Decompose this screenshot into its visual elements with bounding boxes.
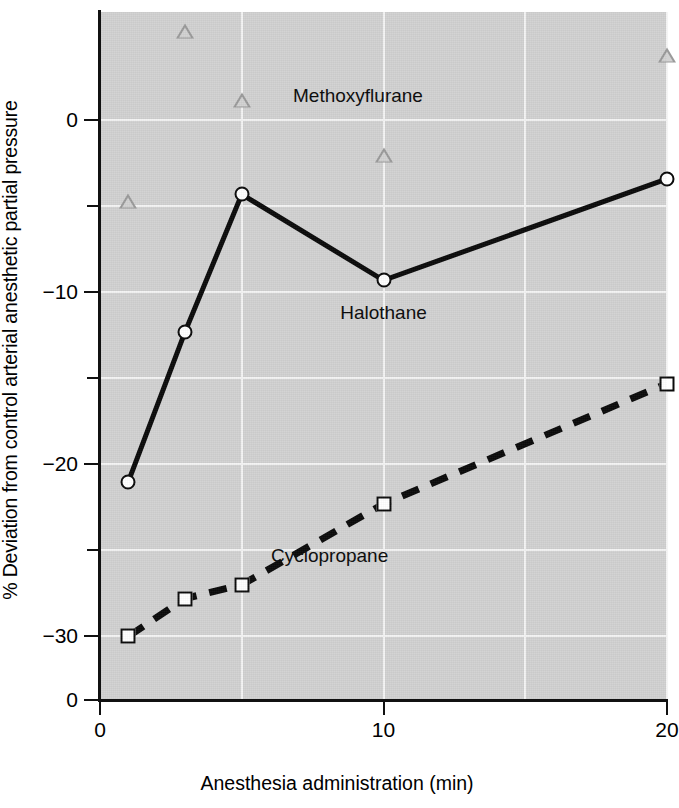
x-axis-title: Anesthesia administration (min) <box>0 772 674 795</box>
x-axis-tick-label: 20 <box>655 718 678 742</box>
data-point-marker-methoxyflurane <box>119 194 137 209</box>
x-axis-tick-label: 0 <box>94 718 106 742</box>
data-point-marker-methoxyflurane <box>658 48 676 63</box>
data-point-marker-halothane <box>660 171 675 186</box>
y-axis-tick <box>87 377 99 379</box>
y-axis-tick <box>84 463 99 465</box>
y-axis-tick-label: 0 <box>66 108 78 132</box>
y-axis-line <box>98 10 101 702</box>
y-axis-tick <box>84 699 99 701</box>
series-label-halothane: Halothane <box>340 302 427 324</box>
data-point-marker-methoxyflurane <box>375 147 393 162</box>
x-axis-tick <box>99 700 101 715</box>
y-axis-tick-label: 0 <box>66 688 78 712</box>
data-point-marker-halothane <box>376 273 391 288</box>
y-axis-tick <box>84 291 99 293</box>
y-axis-title: % Deviation from control arterial anesth… <box>0 0 24 700</box>
series-line-cyclopropane <box>128 384 667 637</box>
x-axis-tick-label: 10 <box>372 718 395 742</box>
y-axis-tick <box>87 549 99 551</box>
y-axis-tick <box>84 119 99 121</box>
plot-area: HalothaneCyclopropaneMethoxyflurane <box>100 12 667 700</box>
x-axis-tick <box>383 700 385 715</box>
data-point-marker-halothane <box>178 324 193 339</box>
triangle-inner <box>378 151 390 161</box>
y-axis-tick-label: −10 <box>42 280 78 304</box>
data-point-marker-cyclopropane <box>376 496 391 511</box>
triangle-inner <box>179 27 191 37</box>
data-point-marker-cyclopropane <box>234 577 249 592</box>
data-point-marker-methoxyflurane <box>233 92 251 107</box>
data-point-marker-halothane <box>121 474 136 489</box>
series-label-methoxyflurane: Methoxyflurane <box>293 85 423 107</box>
triangle-inner <box>661 52 673 62</box>
data-point-marker-cyclopropane <box>660 376 675 391</box>
series-label-cyclopropane: Cyclopropane <box>271 545 388 567</box>
y-axis-tick <box>84 635 99 637</box>
y-axis-tick <box>87 205 99 207</box>
data-point-marker-methoxyflurane <box>176 23 194 38</box>
x-axis-tick <box>666 700 668 715</box>
triangle-inner <box>122 198 134 208</box>
series-line-halothane <box>128 179 667 482</box>
y-axis-tick-label: −30 <box>42 624 78 648</box>
data-point-marker-halothane <box>234 187 249 202</box>
data-point-marker-cyclopropane <box>178 591 193 606</box>
triangle-inner <box>236 96 248 106</box>
data-point-marker-cyclopropane <box>121 629 136 644</box>
y-axis-tick-label: −20 <box>42 452 78 476</box>
